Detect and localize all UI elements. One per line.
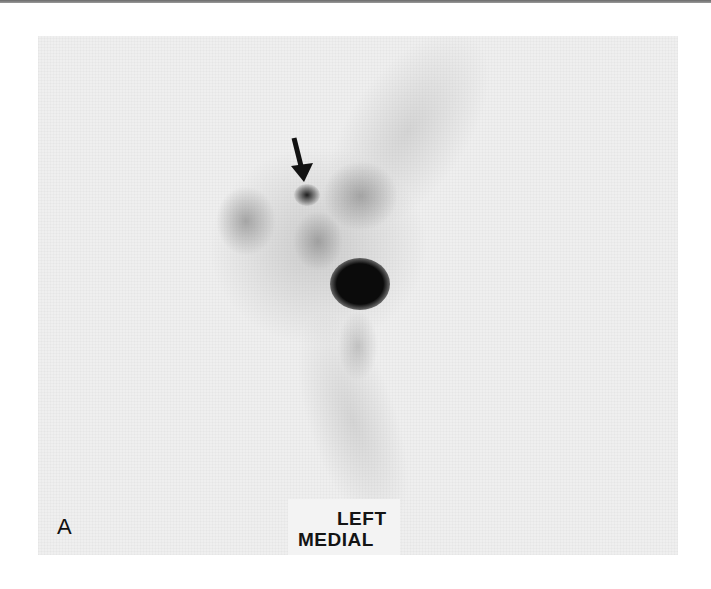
view-label-left: LEFT — [337, 508, 387, 530]
intense-focal-uptake — [330, 258, 390, 310]
focal-uptake-arrowed — [294, 184, 320, 206]
view-label-medial: MEDIAL — [298, 529, 374, 551]
arrow-down-icon — [283, 136, 317, 186]
scintigraphy-image — [38, 36, 678, 555]
uptake-middle-lobe — [293, 211, 343, 271]
panel-letter: A — [57, 514, 72, 540]
top-divider — [0, 0, 711, 3]
uptake-left-lobe — [216, 186, 276, 256]
uptake-tail-mid — [338, 311, 378, 381]
